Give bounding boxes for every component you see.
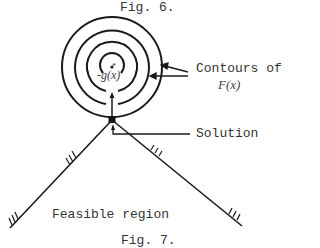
- gradient-star: *: [112, 61, 116, 73]
- gradient-suffix: ): [116, 68, 120, 82]
- solution-label: Solution: [196, 126, 258, 141]
- figure-caption-bottom: Fig. 7.: [121, 233, 176, 248]
- contours-leaders: [150, 63, 188, 79]
- contours-label: Contours of: [196, 61, 282, 76]
- gradient-prefix: -g(: [97, 68, 111, 82]
- contours-function-label: F(x): [218, 77, 240, 93]
- gradient-label: -g(x*): [97, 69, 120, 81]
- gradient-var-wrap: x*: [111, 68, 116, 82]
- solution-leader-head: [111, 124, 115, 130]
- gradient-arrow-head: [110, 92, 115, 98]
- feasible-region-label: Feasible region: [52, 207, 169, 222]
